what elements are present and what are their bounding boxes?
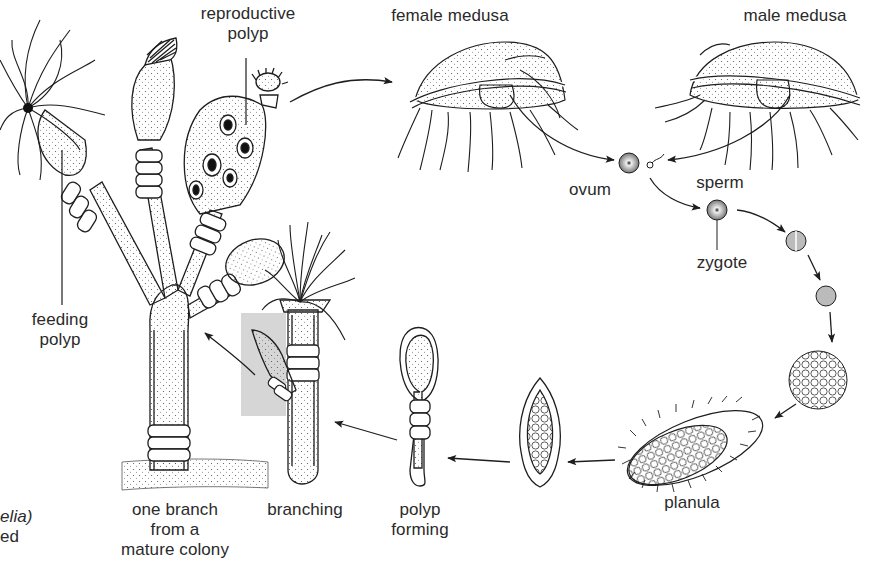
label-line: mature colony bbox=[108, 540, 242, 560]
label-ovum: ovum bbox=[555, 180, 625, 200]
female-medusa bbox=[398, 42, 578, 172]
arrow-polyp-to-female-medusa bbox=[290, 80, 392, 102]
arrow-polyp-forming-to-branching bbox=[335, 422, 397, 440]
zygote bbox=[707, 200, 727, 250]
planula-stage bbox=[618, 395, 772, 501]
male-medusa bbox=[655, 42, 860, 170]
caption-line: ed bbox=[0, 527, 40, 547]
diagram-illustration bbox=[0, 0, 874, 566]
label-branching: branching bbox=[250, 500, 360, 520]
blastula-stage bbox=[789, 351, 847, 409]
label-line: feeding bbox=[10, 310, 110, 330]
arrow-planula-to-larva bbox=[568, 460, 615, 462]
gametes bbox=[619, 153, 664, 173]
label-line: from a bbox=[108, 520, 242, 540]
label-one-branch-mature-colony: one branch from a mature colony bbox=[108, 500, 242, 560]
arrow-cleave1-to-cleave2 bbox=[808, 255, 820, 280]
settled-larva-stage bbox=[520, 378, 561, 487]
label-line: reproductive bbox=[198, 4, 298, 24]
obelia-life-cycle-diagram: reproductive polyp female medusa male me… bbox=[0, 0, 874, 566]
label-female-medusa: female medusa bbox=[360, 6, 540, 26]
caption-line: elia) bbox=[0, 507, 40, 527]
label-sperm: sperm bbox=[685, 173, 755, 193]
arrow-zygote-to-cleave1 bbox=[737, 210, 785, 232]
polyp-forming-stage bbox=[400, 328, 438, 487]
label-zygote: zygote bbox=[682, 253, 762, 273]
caption-fragment: elia) ed bbox=[0, 507, 40, 547]
cleavage-stages bbox=[786, 231, 836, 306]
label-line: polyp bbox=[198, 24, 298, 44]
label-line: polyp bbox=[10, 330, 110, 350]
label-polyp-forming: polyp forming bbox=[380, 500, 460, 540]
label-male-medusa: male medusa bbox=[720, 6, 870, 26]
label-feeding-polyp: feeding polyp bbox=[10, 310, 110, 350]
label-line: forming bbox=[380, 520, 460, 540]
arrow-blastula-to-planula bbox=[775, 404, 796, 418]
label-line: one branch bbox=[108, 500, 242, 520]
label-reproductive-polyp: reproductive polyp bbox=[198, 4, 298, 44]
mature-colony-branch bbox=[0, 20, 291, 490]
label-line: polyp bbox=[380, 500, 460, 520]
arrow-cleave2-to-blastula bbox=[830, 312, 832, 342]
label-planula: planula bbox=[652, 493, 732, 513]
arrow-larva-to-polyp-forming bbox=[448, 458, 510, 462]
